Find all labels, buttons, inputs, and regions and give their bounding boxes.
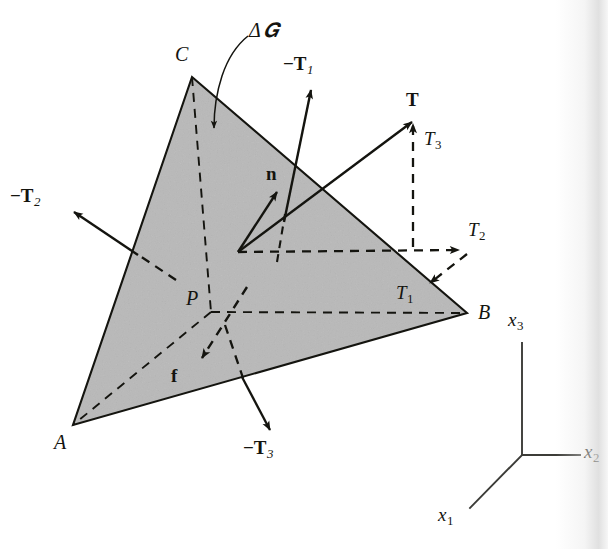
axis-x1-line	[470, 455, 522, 508]
vertex-label-a: A	[54, 432, 66, 452]
tetrahedron-diagram-svg	[0, 0, 608, 549]
label-reaction-neg-T2: −T2	[10, 186, 40, 209]
label-component-T3: T3	[424, 129, 442, 152]
label-normal-vector-n: n	[266, 164, 277, 183]
label-reaction-neg-T1: −T1	[283, 54, 313, 77]
component-T1	[430, 254, 467, 283]
vertex-label-b: B	[478, 302, 490, 322]
coordinate-axes	[470, 343, 580, 508]
vertex-label-c: C	[175, 44, 188, 64]
script-s-symbol: 𝑮	[261, 18, 278, 42]
delta-symbol: Δ	[249, 19, 261, 41]
label-component-T1: T1	[396, 283, 414, 306]
axis-label-x3: x3	[508, 310, 523, 333]
label-reaction-neg-T3: −T3	[243, 438, 273, 461]
label-body-force-f: f	[171, 366, 177, 385]
delta-s-label: Δ𝑮	[249, 20, 278, 40]
axis-label-x2: x2	[584, 442, 599, 465]
axis-label-x1: x1	[438, 505, 453, 528]
figure-root: C A B P Δ𝑮 T n T3 T2 T1 −T1 −T2 −T3 f x3	[0, 0, 608, 549]
label-component-T2: T2	[468, 220, 486, 243]
vertex-label-p: P	[186, 288, 198, 308]
label-traction-vector-T: T	[406, 90, 419, 109]
